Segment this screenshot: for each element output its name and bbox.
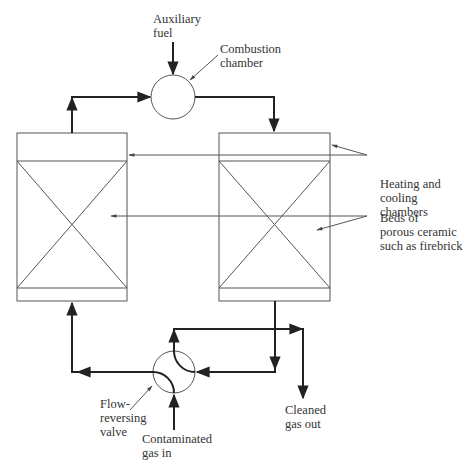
left-regenerator — [17, 133, 127, 301]
rto-diagram: Auxiliary fuel Combustion chamber Heatin… — [0, 0, 466, 471]
combustion-chamber — [151, 75, 195, 119]
valve-pointer — [130, 386, 152, 410]
flow-valve-to-left — [72, 303, 153, 372]
flow-reversing-valve — [153, 351, 195, 393]
cleaned-gas-label: Cleaned gas out — [285, 403, 329, 431]
right-regenerator — [219, 133, 330, 301]
contaminated-gas-label: Contaminated gas in — [142, 432, 215, 460]
flow-right-to-valve — [197, 301, 275, 372]
flow-combustion-to-right — [195, 97, 274, 131]
combustion-chamber-pointer — [190, 55, 218, 80]
combustion-chamber-label: Combustion chamber — [220, 42, 284, 70]
auxiliary-fuel-label: Auxiliary fuel — [153, 12, 204, 40]
heating-pointer-right — [332, 145, 367, 155]
flow-left-to-combustion — [72, 97, 150, 133]
beds-pointer-right — [317, 216, 367, 230]
